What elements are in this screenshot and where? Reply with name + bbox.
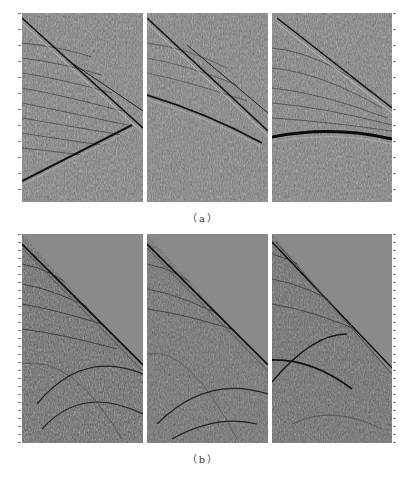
caption-a: （a） — [0, 210, 406, 225]
caption-b: （b） — [0, 451, 406, 466]
seismic-panel-b1 — [22, 234, 143, 443]
y-axis-ticks-right-a — [393, 13, 397, 203]
subfigure-b: （b） — [0, 230, 406, 477]
y-axis-ticks-right-b — [393, 234, 397, 444]
seismic-panel-a2 — [147, 13, 268, 202]
subfigure-a: （a） — [0, 0, 406, 230]
seismic-panel-a3 — [272, 13, 392, 202]
seismic-panel-b2 — [147, 234, 268, 443]
seismic-panel-b3 — [272, 234, 392, 443]
seismic-panel-a1 — [22, 13, 143, 202]
